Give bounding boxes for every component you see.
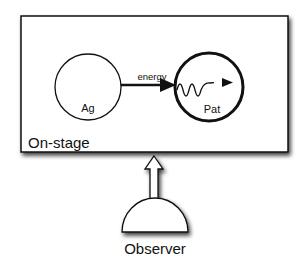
observer-label: Observer [124,240,186,257]
agent-node: Ag [55,54,121,120]
patient-label: Pat [204,103,221,115]
on-stage-label: On-stage [28,134,90,151]
observer-dome-icon [122,198,188,232]
patient-node: Pat [175,53,243,121]
energy-label: energy [137,71,166,82]
observer-arrow [145,156,163,200]
diagram-canvas: Ag energy Pat On-stage Observer [0,0,306,270]
agent-label: Ag [81,102,94,114]
